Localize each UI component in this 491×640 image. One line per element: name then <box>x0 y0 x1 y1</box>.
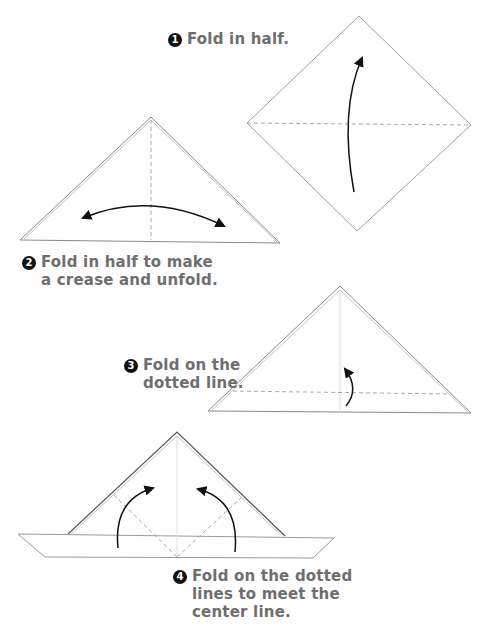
step4-figure <box>18 432 334 558</box>
step-number-badge: 2 <box>22 256 36 270</box>
triangle-paper <box>20 117 280 243</box>
step-2-instruction: 2Fold in half to make a crease and unfol… <box>22 253 218 289</box>
step3-figure <box>208 286 471 413</box>
step1-figure <box>247 16 471 231</box>
step-number-badge: 3 <box>124 359 138 373</box>
step-number-badge: 4 <box>173 570 187 584</box>
step-3-instruction: 3Fold on the dotted line. <box>124 356 244 392</box>
step-1-instruction: 1Fold in half. <box>168 30 289 48</box>
step-number-badge: 1 <box>168 33 182 47</box>
folded-band <box>18 534 334 558</box>
step-4-instruction: 4Fold on the dotted lines to meet the ce… <box>173 567 352 621</box>
upper-triangle <box>68 432 285 536</box>
origami-diagram <box>0 0 491 640</box>
step2-figure <box>20 117 280 243</box>
